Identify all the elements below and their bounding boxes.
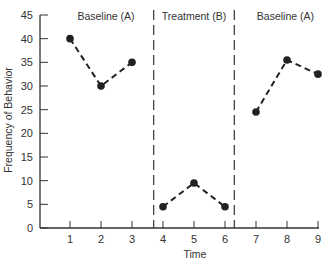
data-point [128, 59, 136, 67]
phase-label: Baseline (A) [77, 10, 134, 22]
data-point [314, 70, 322, 78]
phase-label: Baseline (A) [257, 10, 314, 22]
x-tick-label: 6 [222, 233, 228, 245]
y-tick-label: 30 [21, 80, 33, 92]
phase-label: Treatment (B) [162, 10, 226, 22]
y-tick-label: 15 [21, 151, 33, 163]
data-point [252, 108, 260, 116]
y-tick-label: 45 [21, 9, 33, 21]
data-point [190, 179, 198, 187]
ab-design-chart: 051015202530354045 123456789 Baseline (A… [0, 0, 331, 267]
data-point [159, 203, 167, 211]
x-tick-label: 1 [67, 233, 73, 245]
y-tick-label: 20 [21, 127, 33, 139]
x-tick-label: 4 [160, 233, 166, 245]
data-point [97, 82, 105, 90]
x-axis-title: Time [184, 248, 207, 260]
y-ticks: 051015202530354045 [21, 9, 48, 234]
axes [40, 15, 319, 228]
y-tick-label: 5 [27, 198, 33, 210]
phase-change-lines [154, 10, 235, 228]
y-tick-label: 40 [21, 33, 33, 45]
y-tick-label: 0 [27, 222, 33, 234]
x-tick-label: 9 [315, 233, 321, 245]
x-tick-label: 2 [98, 233, 104, 245]
y-tick-label: 35 [21, 56, 33, 68]
x-ticks: 123456789 [67, 221, 321, 245]
x-tick-label: 5 [191, 233, 197, 245]
phase-line [256, 60, 318, 112]
y-tick-label: 25 [21, 104, 33, 116]
data-point [221, 203, 229, 211]
data-point [66, 35, 74, 43]
y-axis-title: Frequency of Behavior [2, 67, 14, 173]
y-tick-label: 10 [21, 175, 33, 187]
data-series [66, 35, 322, 211]
x-tick-label: 8 [284, 233, 290, 245]
x-tick-label: 7 [253, 233, 259, 245]
data-point [283, 56, 291, 64]
x-tick-label: 3 [129, 233, 135, 245]
phase-line [70, 39, 132, 86]
phase-labels: Baseline (A)Treatment (B)Baseline (A) [77, 10, 314, 22]
